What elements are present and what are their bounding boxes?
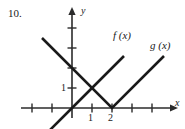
curve-g bbox=[42, 38, 164, 108]
curve-label-g: g (x) bbox=[150, 40, 170, 51]
x-tick-label-1: 1 bbox=[88, 113, 93, 123]
graph-figure bbox=[0, 0, 185, 129]
y-axis-arrow-icon bbox=[68, 7, 75, 15]
axis-label-x: x bbox=[175, 98, 179, 108]
x-tick-label-2: 2 bbox=[108, 113, 113, 123]
axis-label-y: y bbox=[81, 6, 85, 16]
curve-label-f: f (x) bbox=[113, 30, 131, 41]
y-tick-label-1: 1 bbox=[61, 83, 66, 93]
figure-screenshot: 10. x y f (x) bbox=[0, 0, 185, 129]
